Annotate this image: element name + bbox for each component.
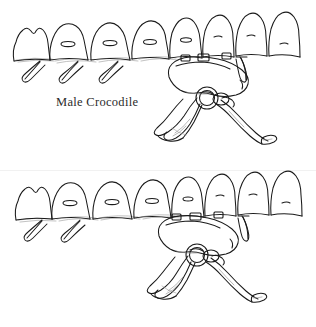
- vertebra-1: [15, 187, 52, 220]
- pubis: [154, 98, 202, 141]
- acetabulum: [196, 87, 229, 109]
- vertebra-1: [13, 28, 50, 61]
- caption-male-crocodile: Male Crocodile: [56, 95, 138, 110]
- vertebra-6: [205, 174, 236, 216]
- rib-process-1: [22, 61, 45, 82]
- vertebra-4: [134, 180, 171, 218]
- vertebral-foramen: [63, 200, 77, 205]
- vertebra-4: [132, 21, 169, 59]
- vertebral-foramen: [61, 41, 75, 46]
- vertebral-foramen: [280, 43, 288, 44]
- vertebral-foramen: [216, 195, 224, 196]
- vertebra-7: [238, 172, 269, 215]
- vertebra-3: [93, 182, 132, 219]
- vertebra-6: [203, 15, 234, 57]
- vertebral-foramen: [105, 199, 119, 204]
- panel-male-crocodile: Male Crocodile: [0, 0, 316, 164]
- female-crocodile-skeleton-illustration: [0, 163, 316, 327]
- rib-process-1: [24, 220, 47, 241]
- male-crocodile-skeleton-illustration: [0, 0, 316, 164]
- vertebra-8: [269, 12, 300, 57]
- vertebra-3: [91, 23, 130, 60]
- vertebral-foramen: [103, 40, 117, 45]
- vertebral-foramen: [247, 35, 255, 36]
- vertebral-foramen: [214, 36, 222, 37]
- rib-process-2: [59, 61, 83, 83]
- rib-process-3: [99, 61, 123, 83]
- vertebra-2: [52, 183, 90, 219]
- vertebral-foramen: [146, 199, 159, 204]
- vertebral-foramen: [282, 202, 290, 203]
- figure-root: Male Crocodile: [0, 0, 316, 327]
- vertebral-foramen: [181, 38, 192, 42]
- vertebral-foramen: [249, 194, 257, 195]
- vertebra-2: [50, 24, 88, 60]
- rib-process-3: [238, 216, 249, 241]
- vertebral-foramen: [183, 197, 193, 201]
- rib-process-2: [61, 220, 85, 242]
- ischium: [206, 255, 267, 302]
- panel-female-crocodile: Female Crocodile: [0, 163, 316, 327]
- vertebral-foramen: [144, 40, 157, 45]
- vertebra-7: [236, 13, 267, 56]
- vertebra-5: [172, 177, 204, 217]
- pubis: [147, 256, 195, 299]
- vertebra-8: [271, 171, 302, 216]
- vertebra-5: [170, 18, 202, 58]
- pelvis-shading: [162, 251, 198, 293]
